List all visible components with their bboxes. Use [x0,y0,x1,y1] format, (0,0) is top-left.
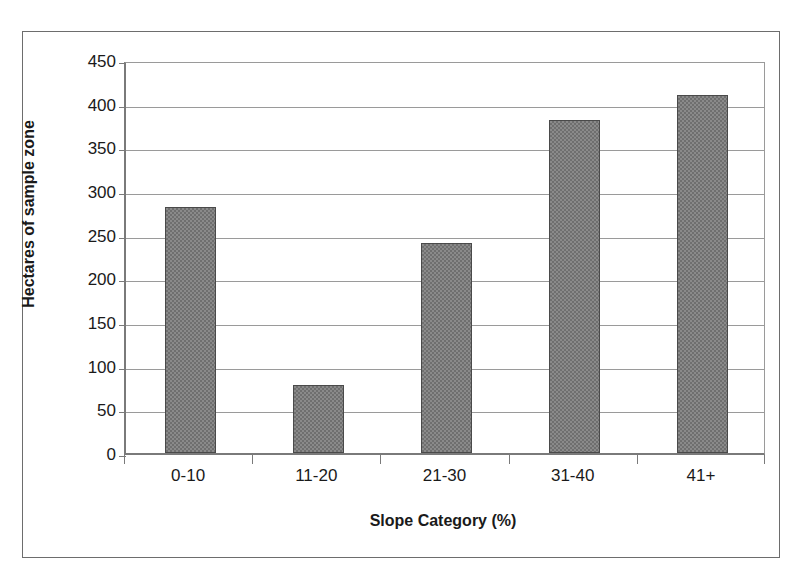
y-axis-tick-label: 350 [46,139,116,159]
x-axis-tick-label: 0-10 [124,466,252,486]
x-axis-tick-mark [380,455,381,464]
gridline [126,150,764,151]
x-axis-tick-mark [637,455,638,464]
y-axis-tick-label: 0 [46,445,116,465]
x-axis-tick-label: 41+ [637,466,765,486]
gridline [126,107,764,108]
y-axis-tick-label: 250 [46,227,116,247]
bar [293,385,344,453]
bar-chart-figure: Hectares of sample zone 0501001502002503… [0,0,802,587]
gridline [126,194,764,195]
gridline [126,238,764,239]
bar [549,120,600,453]
y-axis-tick-mark [119,63,126,64]
y-axis-tick-label: 400 [46,96,116,116]
bar [165,207,216,453]
x-axis-tick-marks [124,455,765,464]
y-axis-tick-label: 100 [46,358,116,378]
y-axis-tick-mark [119,412,126,413]
y-axis-title: Hectares of sample zone [20,84,38,344]
y-axis-tick-label: 300 [46,183,116,203]
x-axis-tick-mark [764,455,765,464]
x-axis-tick-mark [124,455,125,464]
x-axis-tick-mark [509,455,510,464]
y-axis-tick-mark [119,150,126,151]
y-axis-tick-label: 200 [46,270,116,290]
x-axis-tick-mark [252,455,253,464]
y-axis-tick-label: 150 [46,314,116,334]
y-axis-tick-labels: 050100150200250300350400450 [40,62,116,455]
y-axis-tick-mark [119,238,126,239]
x-axis-tick-labels: 0-1011-2021-3031-4041+ [124,466,765,494]
y-axis-tick-mark [119,107,126,108]
y-axis-tick-label: 50 [46,401,116,421]
y-axis-tick-label: 450 [46,52,116,72]
plot-area [124,62,765,455]
bar [677,95,728,453]
x-axis-tick-label: 21-30 [380,466,508,486]
x-axis-tick-label: 31-40 [509,466,637,486]
x-axis-title: Slope Category (%) [120,512,766,530]
x-axis-tick-label: 11-20 [252,466,380,486]
bar [421,243,472,453]
y-axis-tick-mark [119,325,126,326]
y-axis-tick-mark [119,369,126,370]
y-axis-tick-mark [119,281,126,282]
y-axis-tick-mark [119,194,126,195]
